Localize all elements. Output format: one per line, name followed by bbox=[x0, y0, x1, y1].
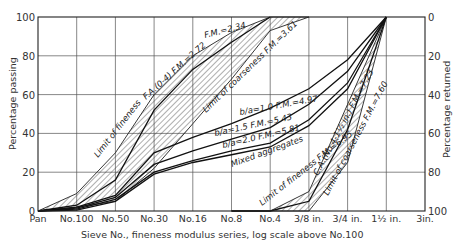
y-tick-label: 20 bbox=[22, 167, 35, 178]
y2-axis-label: Percentage returned bbox=[441, 61, 452, 158]
y-tick-label: 80 bbox=[22, 51, 35, 62]
y-tick-label: 100 bbox=[16, 12, 35, 23]
y2-tick-label: 60 bbox=[428, 128, 441, 139]
x-tick-label: No.50 bbox=[101, 213, 129, 224]
x-axis-label: Sieve No., fineness modulus series, log … bbox=[81, 229, 363, 240]
y2-tick-label: 20 bbox=[428, 51, 441, 62]
y2-tick-label: 80 bbox=[428, 167, 441, 178]
y2-tick-label: 0 bbox=[428, 12, 434, 23]
x-tick-label: No.30 bbox=[140, 213, 168, 224]
x-tick-label: No.8 bbox=[221, 213, 243, 224]
y-axis-label: Percentage passing bbox=[7, 57, 18, 150]
x-tick-label: No.4 bbox=[259, 213, 281, 224]
x-tick-label: No.16 bbox=[179, 213, 207, 224]
y-axis-ticks: 020406080100 bbox=[16, 12, 35, 217]
x-tick-label: Pan bbox=[29, 213, 46, 224]
y-tick-label: 60 bbox=[22, 90, 35, 101]
y2-tick-label: 40 bbox=[428, 90, 441, 101]
x-tick-label: No.100 bbox=[60, 213, 94, 224]
x-tick-label: 3/4 in. bbox=[333, 213, 363, 224]
x-tick-label: 3/8 in. bbox=[294, 213, 324, 224]
x-tick-label: 1½ in. bbox=[371, 213, 401, 224]
grading-chart: 020406080100 100806040200 PanNo.100No.50… bbox=[0, 0, 461, 242]
y-tick-label: 40 bbox=[22, 128, 35, 139]
x-axis-ticks: PanNo.100No.50No.30No.16No.8No.43/8 in.3… bbox=[29, 213, 433, 224]
x-tick-label: 3in. bbox=[416, 213, 434, 224]
